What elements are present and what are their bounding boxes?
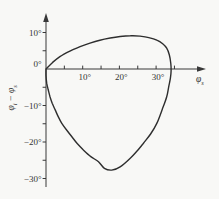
x-tick-label: 10°: [78, 72, 91, 82]
y-label-minus: −: [6, 93, 16, 103]
y-axis-arrow-icon: [43, 13, 49, 22]
x-tick-label: 20°: [115, 72, 128, 82]
x-label-sub: s: [201, 79, 204, 86]
x-tick-label: 30°: [152, 72, 165, 82]
y-tick-label: 10°: [29, 28, 42, 38]
y-label-phi2: φ: [6, 88, 16, 93]
y-label-sub2: s: [11, 85, 18, 88]
y-tick-label: −20°: [24, 137, 42, 147]
figure-container: 10°20°30°10°0°−10°−20°−30° φi−φs φs: [0, 0, 219, 199]
y-tick-label: −30°: [24, 174, 42, 184]
x-axis-label: φs: [196, 74, 204, 86]
chart-canvas: 10°20°30°10°0°−10°−20°−30°: [0, 0, 219, 199]
y-tick-label: 0°: [33, 59, 42, 69]
y-label-phi1: φ: [6, 105, 16, 110]
deviation-curve: [46, 36, 171, 170]
y-axis-label: φi−φs: [6, 57, 18, 139]
y-tick-label: −10°: [24, 101, 42, 111]
x-axis-arrow-icon: [197, 66, 206, 72]
